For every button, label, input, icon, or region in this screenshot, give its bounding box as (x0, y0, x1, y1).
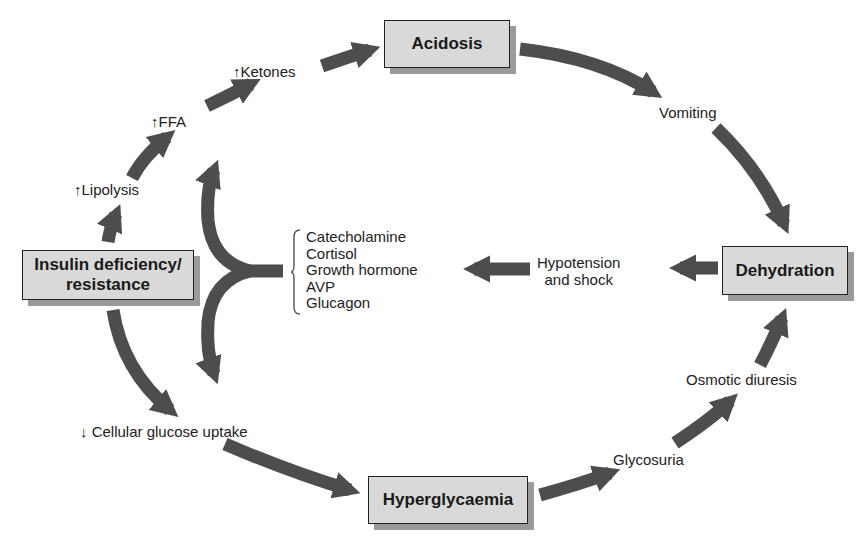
arrow-osmotic-to-dehydration (760, 318, 782, 365)
arrow-lipolysis-to-ffa (132, 137, 167, 178)
hormone-item: Growth hormone (306, 262, 418, 279)
box-hyperglycaemia-label: Hyperglycaemia (383, 490, 513, 510)
label-cellular-glucose-uptake: ↓ Cellular glucose uptake (80, 423, 248, 440)
box-hyperglycaemia: Hyperglycaemia (368, 476, 528, 524)
hormone-item: AVP (306, 279, 418, 296)
arrow-hormones-fork-upper (208, 170, 250, 271)
label-ketones: ↑Ketones (233, 63, 296, 80)
arrow-hormones-fork-lower (208, 271, 250, 374)
box-acidosis: Acidosis (384, 20, 510, 68)
box-insulin-deficiency: Insulin deficiency/ resistance (22, 250, 194, 300)
arrow-insulin-to-lipolysis (108, 214, 116, 242)
hormones-list: Catecholamine Cortisol Growth hormone AV… (306, 229, 418, 312)
arrow-vomiting-to-dehydration (716, 128, 784, 224)
box-dehydration-label: Dehydration (735, 261, 834, 281)
box-dehydration: Dehydration (722, 246, 848, 295)
arrow-acidosis-to-vomiting (520, 49, 653, 92)
arrow-ketones-to-acidosis (322, 50, 370, 66)
label-hypotension: Hypotension and shock (537, 254, 620, 288)
hormone-item: Cortisol (306, 246, 418, 263)
label-lipolysis: ↑Lipolysis (74, 181, 139, 198)
brace-icon (291, 229, 301, 315)
box-acidosis-label: Acidosis (412, 34, 483, 54)
box-insulin-label: Insulin deficiency/ resistance (23, 255, 193, 295)
label-vomiting: Vomiting (659, 104, 717, 121)
hormone-item: Glucagon (306, 295, 418, 312)
arrow-cellular-to-hyperglycaemia (225, 444, 350, 490)
label-glycosuria: Glycosuria (613, 451, 684, 468)
arrow-glycosuria-to-osmotic (675, 401, 730, 443)
label-hypotension-line1: Hypotension (537, 254, 620, 271)
arrow-hyperglycaemia-to-glycosuria (540, 473, 610, 495)
label-osmotic-diuresis: Osmotic diuresis (686, 371, 797, 388)
arrow-insulin-to-cellular (113, 310, 170, 410)
arrow-ffa-to-ketones (207, 84, 251, 106)
label-hypotension-line2: and shock (537, 271, 620, 288)
label-ffa: ↑FFA (151, 113, 186, 130)
hormone-item: Catecholamine (306, 229, 418, 246)
